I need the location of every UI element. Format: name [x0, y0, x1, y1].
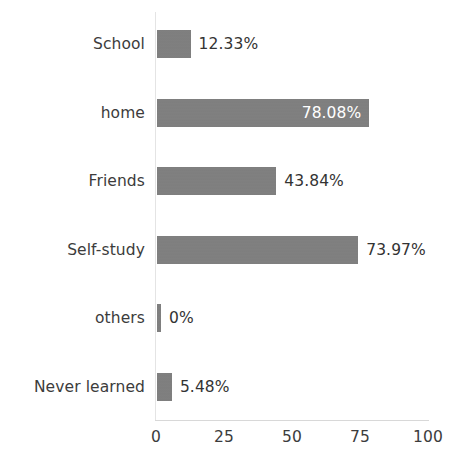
bar [157, 373, 172, 401]
bar [157, 167, 276, 195]
zero-gridline [155, 12, 156, 420]
bar-row: home78.08% [0, 99, 476, 127]
bar-value-label: 73.97% [366, 236, 426, 264]
x-tick-label: 100 [398, 428, 458, 446]
x-tick-label: 0 [126, 428, 186, 446]
bar [157, 236, 358, 264]
x-tick-label: 75 [330, 428, 390, 446]
bar-category-label: Friends [89, 167, 145, 195]
x-tick-label: 50 [262, 428, 322, 446]
bar-chart: School12.33%home78.08%Friends43.84%Self-… [0, 0, 476, 474]
bar-value-label: 43.84% [284, 167, 344, 195]
bar-row: Never learned5.48% [0, 373, 476, 401]
bar-row: School12.33% [0, 30, 476, 58]
bar-row: Friends43.84% [0, 167, 476, 195]
bar [157, 30, 191, 58]
bar-row: others0% [0, 304, 476, 332]
bar-category-label: Never learned [34, 373, 145, 401]
bar [157, 304, 161, 332]
x-tick-label: 25 [194, 428, 254, 446]
bar-category-label: Self-study [67, 236, 145, 264]
bar-value-label: 78.08% [302, 99, 362, 127]
bar-value-label: 5.48% [180, 373, 230, 401]
bar-category-label: home [101, 99, 145, 127]
bar-value-label: 12.33% [199, 30, 259, 58]
bar-category-label: others [95, 304, 145, 332]
bar-value-label: 0% [169, 304, 194, 332]
plot-area: School12.33%home78.08%Friends43.84%Self-… [0, 0, 476, 474]
bar-row: Self-study73.97% [0, 236, 476, 264]
bar-category-label: School [93, 30, 145, 58]
x-axis-line [155, 420, 429, 421]
